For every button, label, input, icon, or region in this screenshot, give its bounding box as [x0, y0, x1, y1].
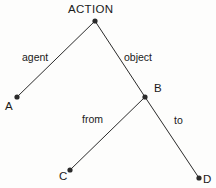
node-label-action: ACTION: [68, 4, 113, 16]
node-layer: [14, 18, 201, 180]
edge-layer: [17, 21, 199, 178]
semantic-network-diagram: agentobjectfromtoACTIONABCD: [0, 0, 216, 188]
node-dot-action: [92, 18, 97, 23]
node-dot-a: [14, 94, 19, 99]
node-dot-d: [196, 175, 201, 180]
node-label-a: A: [5, 101, 13, 113]
node-dot-b: [142, 94, 147, 99]
edge-label-object: object: [124, 52, 152, 63]
edge-b-c: [70, 97, 145, 170]
graph-canvas: [0, 0, 216, 188]
node-label-d: D: [203, 174, 211, 186]
edge-label-from: from: [82, 114, 103, 125]
edge-label-to: to: [174, 115, 183, 126]
node-label-c: C: [59, 171, 67, 183]
node-dot-c: [67, 167, 72, 172]
node-label-b: B: [154, 83, 162, 95]
edge-label-agent: agent: [22, 52, 48, 63]
edge-b-d: [145, 97, 199, 178]
